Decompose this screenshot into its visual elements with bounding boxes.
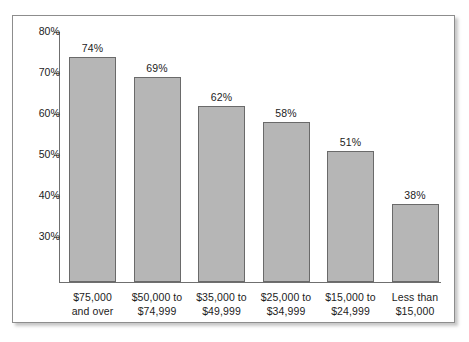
y-axis-tick: 70%: [13, 67, 60, 78]
y-axis-tick-label: 30%: [22, 231, 60, 242]
bar: [134, 77, 181, 282]
bar: [327, 151, 374, 282]
bar-value-label: 74%: [61, 42, 124, 54]
bar: [198, 106, 245, 282]
bar-value-label: 51%: [319, 136, 382, 148]
bar-value-label: 62%: [190, 91, 253, 103]
bar: [69, 57, 116, 283]
y-axis-tick-label: 70%: [22, 67, 60, 78]
y-axis-tick: 40%: [13, 190, 60, 201]
y-axis-tick: 50%: [13, 149, 60, 160]
bar-group: 69%: [126, 77, 189, 282]
bar-value-label: 69%: [126, 62, 189, 74]
y-axis-tick-label: 80%: [22, 26, 60, 37]
plot-area: 80%70%60%50%40%30% 74%69%62%58%51%38% $7…: [13, 16, 456, 324]
y-axis-tick-label: 50%: [22, 149, 60, 160]
bar-value-label: 38%: [384, 189, 447, 201]
x-axis-line: [59, 282, 441, 283]
x-axis-category-label: Less than$15,000: [377, 290, 453, 318]
chart-figure: 80%70%60%50%40%30% 74%69%62%58%51%38% $7…: [12, 15, 455, 323]
bar-group: 38%: [384, 204, 447, 282]
y-axis-tick: 60%: [13, 108, 60, 119]
bar: [392, 204, 439, 282]
bar-group: 74%: [61, 57, 124, 283]
category-label-line: $15,000: [377, 304, 453, 318]
category-label-line: Less than: [377, 290, 453, 304]
y-axis-tick-label: 60%: [22, 108, 60, 119]
bar-group: 51%: [319, 151, 382, 282]
bar-group: 62%: [190, 106, 253, 282]
y-axis-tick: 30%: [13, 231, 60, 242]
y-axis-tick: 80%: [13, 26, 60, 37]
y-axis-tick-label: 40%: [22, 190, 60, 201]
bar: [263, 122, 310, 282]
bar-value-label: 58%: [255, 107, 318, 119]
bar-group: 58%: [255, 122, 318, 282]
